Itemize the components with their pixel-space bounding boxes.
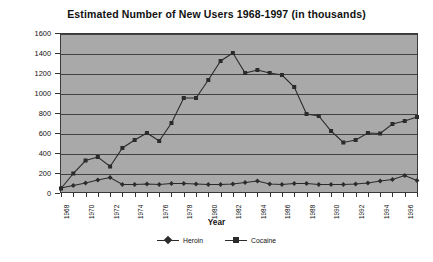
data-point-marker: [194, 96, 198, 100]
data-point-marker: [157, 182, 162, 187]
y-axis-tick-mark: [55, 113, 60, 114]
y-axis-tick-mark: [55, 133, 60, 134]
legend-marker-icon: [225, 236, 247, 244]
series-line: [61, 53, 417, 189]
x-axis-tick-mark: [184, 193, 185, 197]
x-axis-tick-label: 1994: [383, 205, 390, 219]
x-axis-tick-mark: [380, 193, 381, 197]
y-axis-tick-mark: [55, 153, 60, 154]
data-point-marker: [120, 182, 125, 187]
x-axis-tick-mark: [86, 193, 87, 197]
legend-item-heroin[interactable]: Heroin: [157, 236, 203, 244]
chart-container: Estimated Number of New Users 1968-1997 …: [0, 0, 433, 262]
x-axis-tick-mark: [319, 193, 320, 197]
data-point-marker: [402, 173, 407, 178]
x-axis-tick-mark: [356, 193, 357, 197]
legend-marker-icon: [157, 236, 179, 244]
data-point-marker: [108, 165, 112, 169]
data-point-marker: [218, 182, 223, 187]
data-point-marker: [231, 51, 235, 55]
y-axis-tick-label: 1400: [35, 49, 51, 58]
x-axis-tick-mark: [208, 193, 209, 197]
x-axis-tick-label: 1996: [407, 205, 414, 219]
data-point-marker: [96, 155, 100, 159]
data-point-marker: [108, 175, 113, 180]
data-point-marker: [145, 182, 150, 187]
x-axis-tick-mark: [368, 193, 369, 197]
chart-title: Estimated Number of New Users 1968-1997 …: [0, 8, 433, 20]
x-axis-tick-mark: [61, 193, 62, 197]
x-axis-tick-mark: [233, 193, 234, 197]
x-axis-tick-mark: [307, 193, 308, 197]
series-line: [61, 176, 417, 189]
data-point-marker: [292, 85, 296, 89]
x-axis-tick-label: 1978: [186, 205, 193, 219]
x-axis-tick-mark: [245, 193, 246, 197]
y-axis-tick-label: 1200: [35, 69, 51, 78]
data-point-marker: [95, 178, 100, 183]
x-axis-tick-mark: [147, 193, 148, 197]
y-axis-tick-label: 800: [39, 109, 51, 118]
data-point-marker: [219, 59, 223, 63]
x-axis-tick-mark: [392, 193, 393, 197]
data-point-marker: [71, 172, 75, 176]
data-point-marker: [133, 138, 137, 142]
x-axis-tick-mark: [159, 193, 160, 197]
y-axis-tick-labels: 02004006008001000120014001600: [0, 33, 56, 193]
y-axis-tick-mark: [55, 33, 60, 34]
x-axis-tick-label: 1988: [309, 205, 316, 219]
y-axis-tick-label: 0: [47, 189, 51, 198]
data-point-marker: [341, 141, 345, 145]
x-axis-tick-label: 1972: [113, 205, 120, 219]
x-axis-tick-mark: [257, 193, 258, 197]
data-point-marker: [280, 73, 284, 77]
data-point-marker: [181, 181, 186, 186]
data-point-marker: [378, 179, 383, 184]
data-point-marker: [353, 182, 358, 187]
y-axis-tick-mark: [55, 93, 60, 94]
y-axis-tick-label: 200: [39, 169, 51, 178]
data-point-marker: [317, 114, 321, 118]
x-axis-tick-label: 1974: [137, 205, 144, 219]
data-point-marker: [268, 71, 272, 75]
x-axis-tick-label: 1992: [358, 205, 365, 219]
data-point-marker: [206, 78, 210, 82]
data-point-marker: [120, 146, 124, 150]
data-point-marker: [157, 139, 161, 143]
data-point-marker: [403, 119, 407, 123]
x-axis-tick-mark: [282, 193, 283, 197]
y-axis-tick-label: 600: [39, 129, 51, 138]
data-point-marker: [206, 182, 211, 187]
series-heroin: [59, 173, 420, 190]
data-point-marker: [366, 131, 370, 135]
data-point-marker: [255, 179, 260, 184]
x-axis-title: Year: [0, 218, 433, 227]
y-axis-tick-label: 400: [39, 149, 51, 158]
legend-label: Heroin: [183, 237, 203, 244]
y-axis-tick-mark: [55, 73, 60, 74]
x-axis-tick-mark: [405, 193, 406, 197]
data-point-marker: [329, 182, 334, 187]
x-axis-tick-mark: [171, 193, 172, 197]
legend-label: Cocaine: [251, 237, 276, 244]
data-point-marker: [316, 182, 321, 187]
data-point-marker: [390, 122, 394, 126]
data-point-marker: [194, 182, 199, 187]
x-axis-tick-mark: [221, 193, 222, 197]
y-axis-tick-mark: [55, 53, 60, 54]
data-point-marker: [243, 180, 248, 185]
data-point-marker: [305, 112, 309, 116]
x-axis-tick-mark: [196, 193, 197, 197]
y-axis-tick-label: 1000: [35, 89, 51, 98]
x-axis-tick-mark: [135, 193, 136, 197]
data-point-marker: [83, 181, 88, 186]
legend-item-cocaine[interactable]: Cocaine: [225, 236, 276, 244]
data-point-marker: [145, 131, 149, 135]
x-axis-tick-mark: [331, 193, 332, 197]
x-axis-tick-label: 1968: [63, 205, 70, 219]
data-point-marker: [280, 182, 285, 187]
x-axis-tick-label: 1976: [162, 205, 169, 219]
x-axis-tick-label: 1970: [88, 205, 95, 219]
x-axis-tick-label: 1984: [260, 205, 267, 219]
data-point-marker: [230, 182, 235, 187]
